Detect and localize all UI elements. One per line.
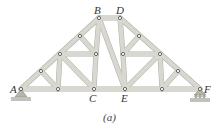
figure-caption: (a) — [103, 111, 116, 124]
label-E: E — [120, 92, 128, 104]
joint-E — [123, 87, 126, 90]
label-D: D — [115, 4, 124, 16]
label-C: C — [89, 92, 97, 104]
members — [21, 18, 200, 89]
truss-diagram: A B D C E F (a) — [0, 0, 222, 131]
joint-A — [19, 87, 22, 90]
joint-D — [118, 16, 121, 19]
label-B: B — [94, 4, 101, 16]
joint-B — [97, 16, 100, 19]
label-F: F — [203, 83, 211, 95]
joint-C — [92, 87, 95, 90]
joint-F — [198, 87, 201, 90]
label-A: A — [9, 83, 17, 95]
